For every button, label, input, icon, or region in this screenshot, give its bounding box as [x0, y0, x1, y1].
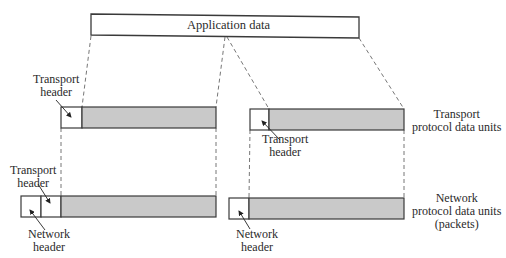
label-line: protocol data units	[412, 121, 501, 134]
label-line: header	[28, 241, 70, 254]
label-line: header	[33, 86, 79, 99]
transport-header-label-packet: Transport header	[10, 164, 56, 190]
network-header-label-left: Network header	[28, 228, 70, 254]
transport-payload-right	[269, 109, 404, 130]
label-line: (packets)	[412, 218, 501, 231]
transport-header-right	[250, 109, 269, 130]
transport-header-label-right: Transport header	[262, 133, 308, 159]
network-payload-left	[61, 196, 216, 217]
label-line: header	[10, 177, 56, 190]
network-header-left	[21, 196, 41, 217]
network-pdu-label: Network protocol data units (packets)	[412, 192, 501, 231]
transport-payload-left	[82, 107, 216, 128]
transport-header-left	[61, 107, 82, 128]
application-data-label: Application data	[187, 18, 270, 33]
label-line: header	[236, 241, 278, 254]
transport-pdu-label: Transport protocol data units	[412, 108, 501, 134]
transport-header-label-left: Transport header	[33, 73, 79, 99]
network-header-right	[229, 198, 249, 219]
network-payload-right	[249, 198, 404, 219]
label-line: header	[262, 146, 308, 159]
transport-header-in-packet-left	[41, 196, 61, 217]
network-header-label-right: Network header	[236, 228, 278, 254]
